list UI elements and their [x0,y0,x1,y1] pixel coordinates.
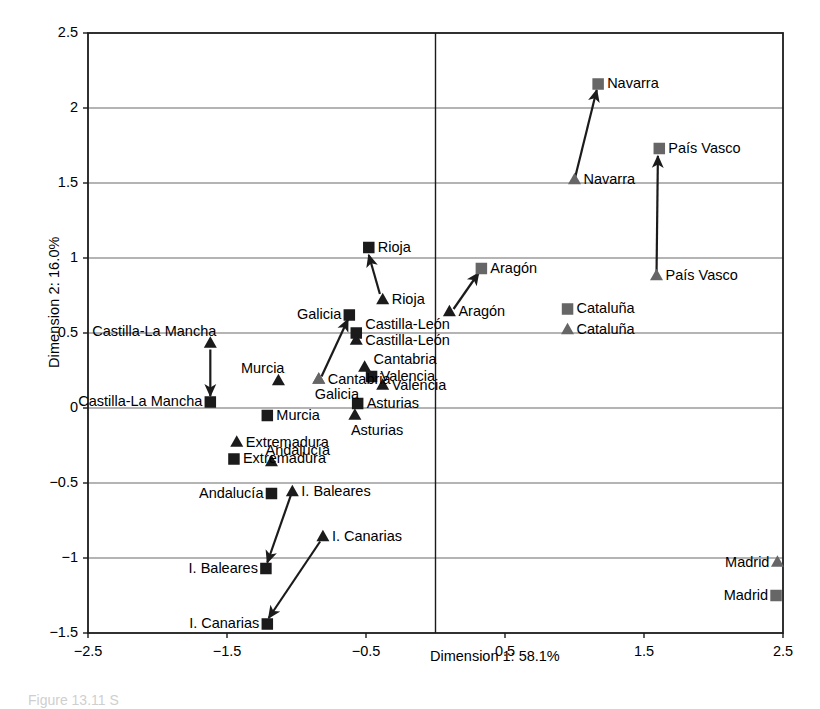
point-label-castilla-le-n-square: Castilla-León [365,317,450,332]
point-label-arag-n-square: Aragón [490,261,537,276]
point-label-castilla-le-n-triangle: Castilla-León [365,333,450,348]
point-label-castilla-la-mancha-triangle: Castilla-La Mancha [92,324,216,339]
point-label-pa-s-vasco-square: País Vasco [668,141,740,156]
point-label-valencia-triangle: Valencia [392,378,447,393]
y-tick-label: 2.5 [58,24,78,40]
point-label-murcia-square: Murcia [276,408,320,423]
point-label-i-canarias-triangle: I. Canarias [332,529,402,544]
point-label-navarra-triangle: Navarra [584,172,636,187]
data-markers [204,78,784,630]
point-label-catalu-a-square: Cataluña [577,301,635,316]
point-label-i-baleares-triangle: I. Baleares [301,484,370,499]
y-tick-label: 2 [70,99,78,115]
point-label-castilla-la-mancha-square: Castilla-La Mancha [78,394,202,409]
point-label-andaluc-a-triangle: Andalucía [265,443,330,458]
point-label-rioja-square: Rioja [378,240,411,255]
figure-container: Dimension 2: 16.0% Dimension 1: 58.1% −2… [0,0,820,709]
point-label-cantabria-triangle: Cantabria [374,352,437,367]
y-tick-label: 1 [70,249,78,265]
point-label-madrid-square: Madrid [724,588,768,603]
point-label-pa-s-vasco-triangle: País Vasco [666,268,738,283]
point-label-navarra-square: Navarra [607,76,659,91]
point-label-rioja-triangle: Rioja [392,292,425,307]
y-tick-label: 1.5 [58,174,78,190]
y-tick-label: −0.5 [49,474,78,490]
y-tick-label: −1 [61,549,78,565]
point-label-asturias-square: Asturias [367,396,419,411]
y-tick-label: 0.5 [58,324,78,340]
point-label-galicia-triangle: Galicia [315,387,359,402]
point-label-arag-n-triangle: Aragón [458,304,505,319]
point-label-catalu-a-triangle: Cataluña [577,322,635,337]
x-tick-label: −0.5 [352,643,381,659]
point-label-i-canarias-square: I. Canarias [189,616,259,631]
point-label-i-baleares-square: I. Baleares [189,561,258,576]
point-label-madrid-triangle: Madrid [725,555,769,570]
x-tick-label: 0.5 [495,643,515,659]
x-tick-label: −1.5 [213,643,242,659]
y-tick-label: 0 [70,399,78,415]
x-tick-label: 1.5 [634,643,654,659]
x-tick-label: 2.5 [773,643,793,659]
point-label-murcia-triangle: Murcia [241,361,285,376]
x-tick-label: −2.5 [74,643,103,659]
point-label-andaluc-a-square: Andalucía [199,486,264,501]
point-label-galicia-square: Galicia [297,307,341,322]
point-label-asturias-triangle: Asturias [351,423,403,438]
y-tick-label: −1.5 [49,624,78,640]
y-axis-label: Dimension 2: 16.0% [46,248,62,368]
figure-caption: Figure 13.11 S [28,692,119,708]
